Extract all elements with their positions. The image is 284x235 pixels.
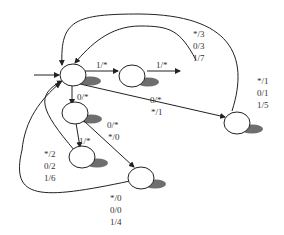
state-diagram: 1/* 1/* 0/* 0/* */1 1/* 0/* */0 */3 0/3 … [0, 0, 284, 235]
label-s2-back-3: 1/5 [257, 100, 269, 110]
label-s2-back-2: 0/1 [257, 88, 269, 98]
label-s1-back-1: */3 [193, 29, 205, 39]
label-s3-s5-b: */0 [108, 132, 120, 142]
state-s4 [69, 146, 95, 168]
label-s3-s4: 1/* [79, 136, 91, 146]
label-s3-s5-a: 0/* [107, 120, 119, 130]
state-s0 [60, 64, 86, 86]
label-s0-s2-b: */1 [151, 107, 163, 117]
edge-s1-s0 [75, 26, 196, 63]
label-s1-back-3: 1/7 [193, 53, 205, 63]
state-s1 [119, 65, 145, 87]
label-s5-back-3: 1/4 [110, 217, 122, 227]
label-s0-s2-a: 0/* [150, 95, 162, 105]
label-s5-back-1: */0 [110, 193, 122, 203]
state-s5 [128, 167, 154, 189]
label-s1-back-2: 0/3 [193, 41, 205, 51]
label-s4-back-1: */2 [44, 149, 56, 159]
state-s3 [62, 102, 88, 124]
label-s2-back-1: */1 [257, 76, 269, 86]
label-s1-out: 1/* [156, 60, 168, 70]
label-s0-s3: 0/* [77, 92, 89, 102]
label-s4-back-3: 1/6 [44, 173, 56, 183]
state-s2 [224, 112, 250, 134]
label-s0-s1: 1/* [96, 60, 108, 70]
label-s5-back-2: 0/0 [110, 205, 122, 215]
label-s4-back-2: 0/2 [44, 161, 56, 171]
